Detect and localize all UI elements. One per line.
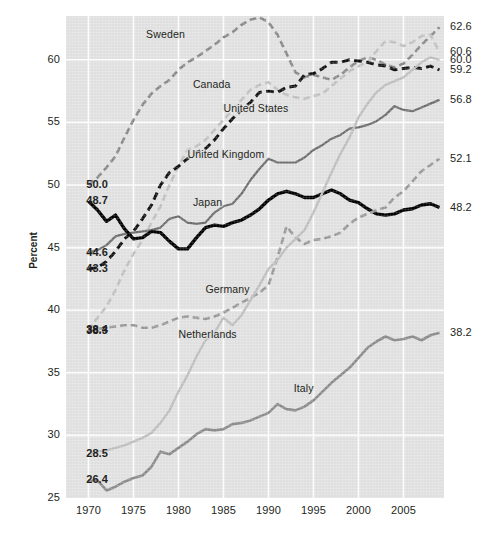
- y-axis-title: Percent: [28, 211, 39, 291]
- end-value-callout: 56.8: [450, 93, 472, 105]
- end-value-callout: 48.2: [450, 201, 472, 213]
- series-label-united-kingdom: United Kingdom: [188, 148, 265, 160]
- start-value-callout: 38.3: [74, 324, 108, 336]
- x-tick-label: 2000: [334, 504, 384, 516]
- end-value-callout: 52.1: [450, 152, 472, 164]
- series-line-italy: [89, 333, 440, 491]
- x-tick-label: 1985: [199, 504, 249, 516]
- series-line-netherlands: [89, 57, 440, 454]
- y-tick-label: 35: [24, 366, 60, 378]
- start-value-callout: 26.4: [74, 473, 108, 485]
- x-tick-label: 1995: [289, 504, 339, 516]
- y-tick-label: 55: [24, 115, 60, 127]
- start-value-callout: 28.5: [74, 447, 108, 459]
- x-tick-label: 1970: [64, 504, 114, 516]
- x-tick-label: 2005: [379, 504, 429, 516]
- series-label-sweden: Sweden: [146, 28, 185, 40]
- y-tick-label: 50: [24, 178, 60, 190]
- series-label-canada: Canada: [193, 78, 231, 90]
- series-label-germany: Germany: [206, 283, 250, 295]
- x-tick-label: 1975: [109, 504, 159, 516]
- series-label-united-states: United States: [224, 102, 289, 114]
- x-tick-label: 1980: [154, 504, 204, 516]
- y-tick-label: 60: [24, 53, 60, 65]
- y-tick-label: 40: [24, 303, 60, 315]
- plot-svg: [66, 16, 444, 498]
- plot-panel: SwedenCanadaUnited StatesUnited KingdomJ…: [66, 16, 444, 498]
- end-value-callout: 38.2: [450, 326, 472, 338]
- series-label-italy: Italy: [294, 382, 314, 394]
- series-label-japan: Japan: [193, 196, 222, 208]
- series-line-canada: [89, 35, 440, 330]
- start-value-callout: 48.7: [74, 194, 108, 206]
- x-tick-label: 1990: [244, 504, 294, 516]
- end-value-callout: 62.6: [450, 20, 472, 32]
- y-tick-label: 25: [24, 491, 60, 503]
- start-value-callout: 44.6: [74, 246, 108, 258]
- series-lines: [89, 17, 440, 490]
- series-label-netherlands: Netherlands: [179, 328, 237, 340]
- end-value-callout: 59.2: [450, 63, 472, 75]
- gridlines: [66, 16, 444, 498]
- start-value-callout: 50.0: [74, 178, 108, 190]
- y-tick-label: 30: [24, 428, 60, 440]
- start-value-callout: 43.3: [74, 262, 108, 274]
- chart-figure: SwedenCanadaUnited StatesUnited KingdomJ…: [0, 0, 490, 555]
